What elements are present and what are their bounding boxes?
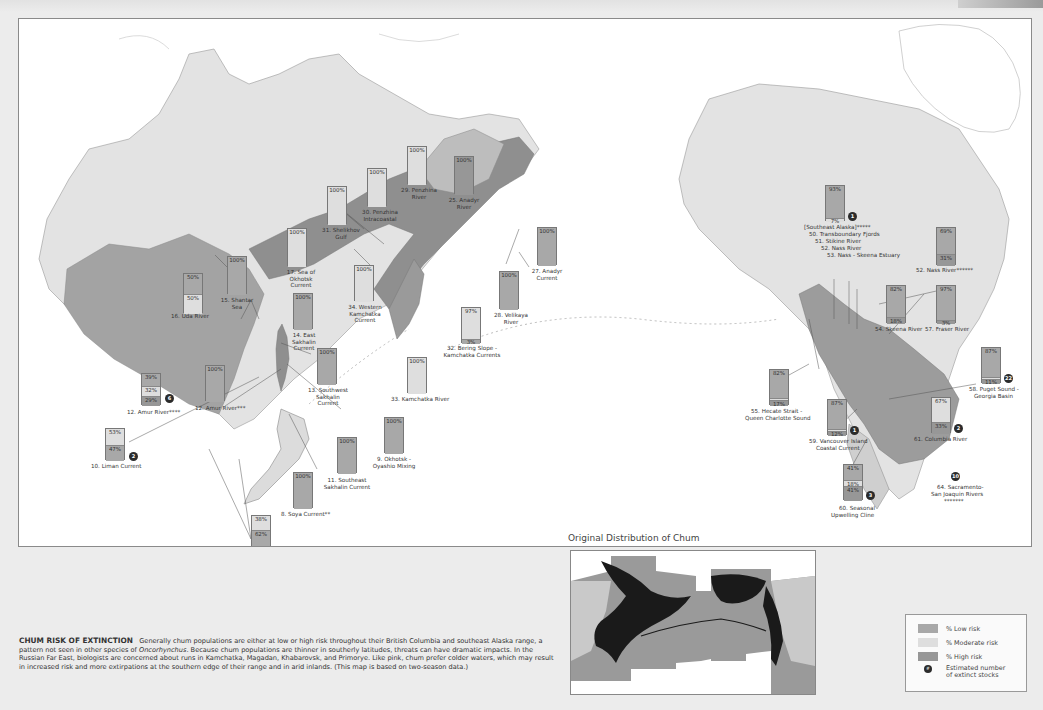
- label-southeast-sakhalin-current: 11. Southeast Sakhalin Current: [323, 477, 371, 490]
- stock-bar-shelikhov-gulf: 100%: [327, 186, 347, 224]
- stock-bar-anadyr-river: 100%: [454, 156, 474, 194]
- label-nass-river-52: 52. Nass River: [821, 245, 861, 252]
- label-anadyr-river: 25. Anadyr River: [444, 197, 484, 210]
- legend: % Low risk % Moderate risk % High risk #…: [905, 614, 1027, 692]
- extinct-stocks-badge-amur: 6: [165, 394, 174, 403]
- legend-swatch-high: [918, 652, 938, 661]
- stock-bar-kamchatka-river: 100%: [407, 357, 427, 393]
- legend-item-moderate-risk: % Moderate risk: [918, 638, 998, 647]
- label-transboundary-fjords: 50. Transboundary Fjords: [809, 231, 880, 238]
- label-bering-slope: 32. Bering Slope - Kamchatka Currents: [441, 345, 503, 358]
- inset-map-original-distribution: [570, 550, 816, 695]
- stock-bar-fraser-river: 97% 3%: [936, 285, 956, 323]
- stock-bar-western-kamchatka-current: 100%: [354, 265, 374, 301]
- extinct-stocks-badge-liman: 2: [129, 452, 138, 461]
- stock-bar-okhotsk-oyashio-mixing: 100%: [384, 417, 404, 453]
- stock-bar-penzhina-intracoastal: 100%: [367, 168, 387, 206]
- stock-bar-velikaya-river: 100%: [499, 271, 519, 309]
- stock-bar-vancouver-island-coastal-current: 87% 1% 12%: [827, 399, 847, 435]
- label-shelikhov-gulf: 31. Shelikhov Gulf: [321, 227, 361, 240]
- caption-title: CHUM RISK OF EXTINCTION: [19, 636, 133, 645]
- label-soya-current: 8. Soya Current**: [281, 511, 330, 518]
- legend-item-extinct-stocks: # Estimated number of extinct stocks: [918, 665, 1005, 679]
- stock-bar-skeena-river: 82% 18%: [886, 285, 906, 323]
- label-southeast-alaska: [Southeast Alaska]*****: [804, 224, 871, 231]
- label-penzhina-intracoastal: 30. Penzhina Intracoastal: [357, 209, 403, 222]
- inset-title: Original Distribution of Chum: [568, 533, 699, 543]
- stock-bar-hecate-strait: 82% 1% 17%: [769, 369, 789, 405]
- label-puget-sound: 58. Puget Sound -: [969, 386, 1019, 393]
- label-seasonal: 60. Seasonal: [839, 505, 875, 512]
- label-western-kamchatka-current: 34. Western Kamchatka Current: [345, 304, 385, 324]
- label-nass-skeena-estuary: 53. Nass - Skeena Estuary: [827, 252, 900, 259]
- label-vancouver-island: 59. Vancouver Island: [809, 438, 868, 445]
- stock-bar-liman-current: 53% 47%: [105, 428, 125, 460]
- stock-bar-puget-sound-georgia-basin: 87% 2% 11%: [981, 347, 1001, 383]
- label-velikaya-river: 28. Velikaya River: [491, 312, 531, 325]
- top-corner-tab: [958, 0, 1043, 8]
- extinct-stocks-badge-columbia: 2: [954, 424, 963, 433]
- label-coastal-current: Coastal Current: [816, 445, 860, 452]
- label-okhotsk-oyashio-mixing: 9. Okhotsk - Oyashio Mixing: [369, 456, 419, 469]
- label-liman-current: 10. Liman Current: [91, 463, 142, 470]
- label-kamchatka-river: 33. Kamchatka River: [391, 396, 449, 403]
- stock-bar-nass-river: 69% 31%: [936, 227, 956, 265]
- label-san-joaquin-rivers: San Joaquin Rivers: [931, 491, 983, 498]
- stock-bar-southwest-sakhalin-current: 100%: [317, 348, 337, 384]
- stock-bar-soya-current: 100%: [293, 472, 313, 508]
- stock-bar-north-korean-current: 38% 62%: [251, 515, 271, 547]
- stock-bar-bering-slope: 97% 3%: [461, 307, 481, 343]
- label-nass-river: 52. Nass River******: [916, 267, 973, 274]
- stock-bar-sea-of-okhotsk-current: 100%: [287, 228, 307, 266]
- label-stikine-river: 51. Stikine River: [815, 238, 861, 245]
- label-uda-river: 16. Uda River: [171, 313, 209, 320]
- label-fraser-river: 57. Fraser River: [925, 326, 969, 333]
- extinct-stocks-badge-puget: 22: [1004, 374, 1013, 383]
- label-columbia-river: 61. Columbia River: [914, 436, 967, 443]
- stock-bar-penzhina-river: 100%: [407, 146, 427, 184]
- label-hecate-strait: 55. Hecate Strait -: [751, 408, 802, 415]
- map-landmass: [19, 19, 1031, 546]
- label-penzhina-river: 29. Penzhina River: [399, 187, 439, 200]
- stock-bar-amur-river-4star: 39% 32% 29%: [141, 373, 161, 405]
- stock-bar-columbia-river: 67% 33%: [931, 397, 951, 433]
- label-queen-charlotte-sound: Queen Charlotte Sound: [745, 415, 811, 422]
- caption: CHUM RISK OF EXTINCTION Generally chum p…: [19, 637, 559, 671]
- label-amur-river-3star: 12. Amur River***: [195, 405, 245, 412]
- stock-bar-southeast-sakhalin-current: 100%: [337, 437, 357, 473]
- extinct-stocks-badge-vancouver: 1: [850, 426, 859, 435]
- caption-italic: Oncorhynchus: [139, 646, 186, 654]
- legend-swatch-low: [918, 624, 938, 633]
- label-amur-river-4star: 12. Amur River****: [127, 409, 180, 416]
- label-sacramento: 64. Sacramento-: [937, 484, 984, 491]
- label-sacramento-asterisks: *******: [944, 498, 964, 505]
- stock-bar-anadyr-current: 100%: [537, 227, 557, 265]
- stock-bar-uda-river: 50% 50%: [183, 273, 203, 313]
- stock-bar-amur-river-3star: 100%: [205, 365, 225, 401]
- top-band: [0, 0, 1043, 12]
- stock-bar-seasonal-upwelling-cline: 41% 18% 41%: [843, 464, 863, 500]
- extinct-stocks-badge-seak: 1: [848, 212, 857, 221]
- legend-item-low-risk: % Low risk: [918, 624, 980, 633]
- label-skeena-river: 54. Skeena River: [875, 326, 922, 333]
- label-shantar-sea: 15. Shantar Sea: [217, 297, 257, 310]
- extinct-stock-symbol-icon: #: [924, 665, 932, 673]
- stock-bar-east-sakhalin-current: 100%: [293, 293, 313, 329]
- legend-item-high-risk: % High risk: [918, 652, 982, 661]
- stock-bar-southeast-alaska: 93% 7%: [825, 185, 845, 221]
- legend-swatch-moderate: [918, 638, 938, 647]
- label-sea-of-okhotsk-current: 17. Sea of Okhotsk Current: [281, 269, 321, 289]
- main-map: 50% 50% 16. Uda River 100% 15. Shantar S…: [18, 18, 1032, 547]
- extinct-stocks-badge-sacramento: 10: [951, 472, 960, 481]
- extinct-stocks-badge-upwelling: 3: [866, 491, 875, 500]
- label-upwelling-cline: Upwelling Cline: [831, 512, 874, 519]
- label-georgia-basin: Georgia Basin: [974, 393, 1013, 400]
- label-southwest-sakhalin-current: 13. Southwest Sakhalin Current: [305, 387, 351, 407]
- label-anadyr-current: 27. Anadyr Current: [527, 268, 567, 281]
- stock-bar-shantar-sea: 100%: [227, 256, 247, 294]
